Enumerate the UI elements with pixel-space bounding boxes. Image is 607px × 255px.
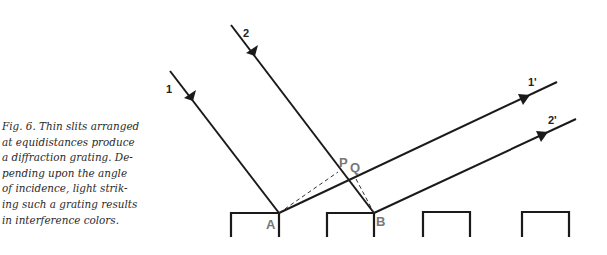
point-label-Q: Q [350,160,360,175]
point-label-A: A [266,217,276,232]
incident-ray-1 [170,71,279,213]
slit-block-4 [522,212,569,237]
path-difference-line-AP [279,172,338,213]
grating-slits [231,212,569,237]
point-label-P: P [339,155,348,170]
ray-label-1-prime: 1' [528,76,537,88]
diffraction-grating-diagram: 1 2 1' 2' A B P Q [0,0,607,255]
point-label-B: B [376,214,385,229]
arrowheads [184,45,548,142]
ray-label-2: 2 [243,27,249,39]
slit-block-3 [423,212,470,237]
ray-label-1: 1 [166,83,172,95]
slit-block-2 [327,213,374,237]
ray-label-2-prime: 2' [548,114,557,126]
